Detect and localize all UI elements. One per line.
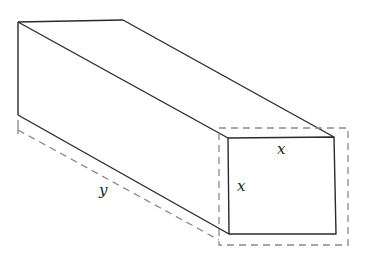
box-outline [18, 20, 336, 234]
top-right-long-edge [123, 20, 334, 137]
back-top-edge [18, 20, 123, 22]
dimension-guides [18, 120, 348, 245]
top-left-long-edge [18, 22, 228, 138]
length-dashed-line [18, 130, 219, 240]
bottom-long-edge [18, 115, 229, 234]
label-x-side: x [237, 177, 246, 195]
label-y-length: y [98, 181, 108, 199]
label-x-top: x [277, 140, 286, 158]
box-diagram: x x y [0, 0, 372, 264]
